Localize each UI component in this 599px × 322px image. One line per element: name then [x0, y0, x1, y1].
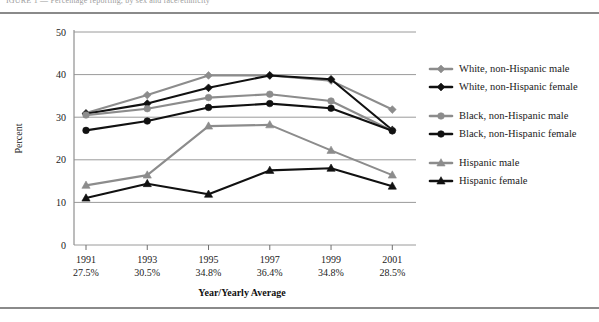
marker-diamond [437, 65, 445, 73]
y-axis-tick-label: 50 [56, 27, 66, 38]
legend-item[interactable]: Hispanic female [430, 175, 528, 186]
x-axis-average-label: 28.5% [379, 267, 405, 278]
marker-circle [438, 113, 445, 120]
x-axis-year-label: 2001 [382, 254, 402, 265]
marker-circle [83, 112, 90, 119]
marker-circle [328, 98, 335, 105]
x-axis-title: Year/Yearly Average [198, 287, 286, 298]
x-axis-year-label: 1997 [260, 254, 280, 265]
marker-circle [266, 100, 273, 107]
marker-circle [266, 91, 273, 98]
legend-label: Hispanic female [459, 175, 528, 186]
series-6 [82, 164, 397, 201]
marker-circle [328, 105, 335, 112]
marker-diamond [205, 72, 213, 80]
marker-diamond [388, 106, 396, 114]
x-axis-average-label: 30.5% [134, 267, 160, 278]
line-chart: 01020304050Percent199127.5%199330.5%1995… [0, 14, 599, 308]
legend-label: White, non-Hispanic female [459, 81, 578, 92]
marker-diamond [266, 72, 274, 80]
legend-item[interactable]: Hispanic male [430, 157, 520, 168]
series-line [86, 125, 392, 185]
legend-label: White, non-Hispanic male [459, 63, 570, 74]
y-axis-tick-label: 40 [56, 69, 66, 80]
series-3 [83, 91, 396, 134]
legend-item[interactable]: Black, non-Hispanic female [430, 128, 577, 139]
x-axis-average-label: 34.8% [318, 267, 344, 278]
y-axis-tick-label: 10 [56, 197, 66, 208]
legend-label: Black, non-Hispanic female [459, 128, 577, 139]
x-axis-year-label: 1991 [76, 254, 96, 265]
y-axis-tick-label: 30 [56, 112, 66, 123]
marker-circle [144, 118, 151, 125]
x-axis-average-label: 36.4% [257, 267, 283, 278]
x-axis-year-label: 1993 [137, 254, 157, 265]
legend-item[interactable]: White, non-Hispanic female [430, 81, 578, 92]
x-axis-group: 199127.5%199330.5%199534.8%199736.4%1999… [73, 245, 405, 278]
series-line [86, 168, 392, 198]
x-axis-year-label: 1995 [199, 254, 219, 265]
y-axis-tick-label: 0 [61, 240, 66, 251]
x-axis-year-label: 1999 [321, 254, 341, 265]
marker-circle [438, 131, 445, 138]
legend-item[interactable]: White, non-Hispanic male [430, 63, 570, 74]
figure-container: IGURE 1 — Percentage reporting, by sex a… [0, 0, 599, 322]
legend-label: Black, non-Hispanic male [459, 110, 569, 121]
marker-circle [205, 104, 212, 111]
marker-diamond [205, 84, 213, 92]
x-axis-average-label: 34.8% [196, 267, 222, 278]
legend-label: Hispanic male [459, 157, 520, 168]
x-axis-average-label: 27.5% [73, 267, 99, 278]
series-5 [82, 121, 397, 189]
legend-group: White, non-Hispanic maleWhite, non-Hispa… [430, 63, 578, 186]
legend-item[interactable]: Black, non-Hispanic male [430, 110, 569, 121]
y-axis-tick-label: 20 [56, 154, 66, 165]
marker-triangle [143, 179, 151, 186]
y-axis-title: Percent [13, 123, 24, 153]
marker-diamond [437, 83, 445, 91]
chart-plot-area: 01020304050Percent199127.5%199330.5%1995… [0, 14, 599, 308]
marker-circle [389, 128, 396, 135]
bottom-horizontal-rule [0, 307, 599, 309]
marker-diamond [143, 91, 151, 99]
marker-circle [83, 127, 90, 134]
series-line [86, 76, 392, 131]
marker-circle [144, 105, 151, 112]
marker-circle [205, 94, 212, 101]
gridlines-group: 01020304050 [56, 27, 416, 251]
clipped-figure-header: IGURE 1 — Percentage reporting, by sex a… [6, 0, 210, 6]
